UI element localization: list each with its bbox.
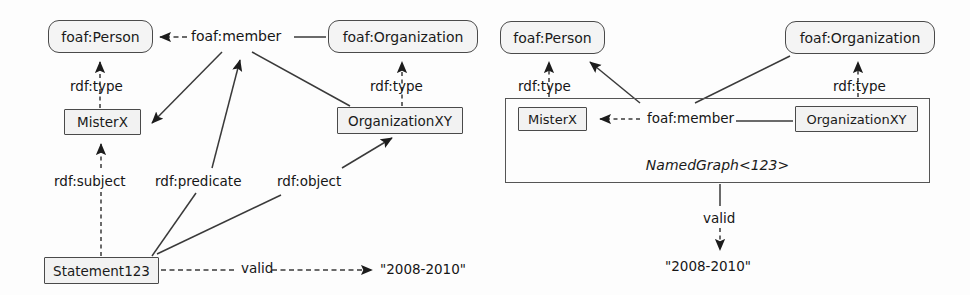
node-organizationxy-right[interactable]: OrganizationXY: [795, 106, 918, 132]
node-label: OrganizationXY: [348, 113, 452, 129]
edge-label-rdf-type-person-left: rdf:type: [70, 80, 123, 94]
edge-label-rdf-type-org-right: rdf:type: [833, 80, 886, 94]
edge-r-graph-to-org: [695, 56, 790, 103]
named-graph-caption: NamedGraph<123>: [506, 157, 929, 173]
edge-statement-rdfobject-orgxy: [157, 195, 281, 254]
node-organizationxy-left[interactable]: OrganizationXY: [337, 107, 463, 134]
node-foaf-organization-right[interactable]: foaf:Organization: [785, 21, 935, 54]
edge-statement-rdfobject-orgxy-head: [342, 138, 392, 168]
edge-label-rdf-type-person-right: rdf:type: [518, 80, 571, 94]
edge-member-to-misterx: [152, 52, 222, 123]
node-label: foaf:Organization: [343, 29, 464, 45]
node-misterx-left[interactable]: MisterX: [64, 109, 141, 135]
node-foaf-person-right[interactable]: foaf:Person: [500, 21, 605, 54]
edge-statement-rdfpredicate-member-head: [212, 60, 240, 168]
node-label: MisterX: [77, 114, 128, 130]
node-misterx-right[interactable]: MisterX: [518, 107, 587, 131]
edge-label-foaf-member-left: foaf:member: [191, 29, 281, 43]
edge-r-graph-to-person: [590, 62, 640, 103]
node-label: foaf:Organization: [800, 30, 921, 46]
edge-label-rdf-subject: rdf:subject: [54, 175, 126, 189]
edge-label-rdf-predicate: rdf:predicate: [155, 175, 241, 189]
edge-label-valid-left: valid: [241, 262, 273, 276]
node-foaf-person-left[interactable]: foaf:Person: [48, 20, 153, 53]
node-label: foaf:Person: [513, 30, 591, 46]
literal-date-range-right: "2008-2010": [665, 258, 751, 274]
node-label: Statement123: [53, 263, 150, 279]
edge-label-valid-right: valid: [703, 212, 735, 226]
literal-date-range-left: "2008-2010": [380, 261, 466, 277]
edge-label-rdf-object: rdf:object: [277, 175, 341, 189]
diagram-canvas: foaf:Person (vertical dashed) --> foaf:O…: [0, 0, 970, 295]
node-label: foaf:Person: [61, 29, 139, 45]
node-label: MisterX: [528, 112, 577, 127]
edge-member-to-orgxy: [252, 52, 350, 106]
edge-label-rdf-type-org-left: rdf:type: [370, 80, 423, 94]
edge-label-foaf-member-right: foaf:member: [645, 112, 736, 126]
node-label: OrganizationXY: [807, 112, 907, 127]
node-foaf-organization-left[interactable]: foaf:Organization: [328, 20, 478, 53]
node-statement123[interactable]: Statement123: [44, 257, 159, 284]
